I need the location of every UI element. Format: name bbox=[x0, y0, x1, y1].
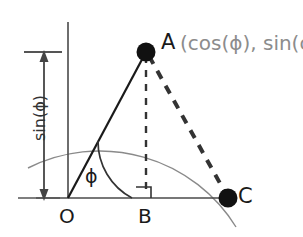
dashed-chord-ac bbox=[149, 56, 226, 194]
point-b-label: B bbox=[138, 206, 152, 226]
point-a-marker bbox=[137, 43, 156, 62]
angle-arc bbox=[98, 141, 132, 198]
point-c-label: C bbox=[238, 186, 253, 207]
angle-label: ϕ bbox=[85, 167, 98, 186]
trigonometry-figure: A (cos(ϕ), sin(ϕ)) O B C ϕ sin(ϕ) bbox=[0, 0, 303, 237]
sin-measure-arrowhead-down bbox=[40, 189, 49, 201]
right-angle-marker bbox=[136, 187, 151, 198]
sin-measure-label: sin(ϕ) bbox=[32, 73, 48, 163]
point-a-coordinates-label: (cos(ϕ), sin(ϕ)) bbox=[180, 33, 303, 53]
point-c-marker bbox=[219, 189, 238, 208]
point-a-label: A bbox=[161, 32, 175, 53]
point-o-label: O bbox=[59, 206, 75, 226]
radius-line-oa bbox=[68, 52, 146, 198]
